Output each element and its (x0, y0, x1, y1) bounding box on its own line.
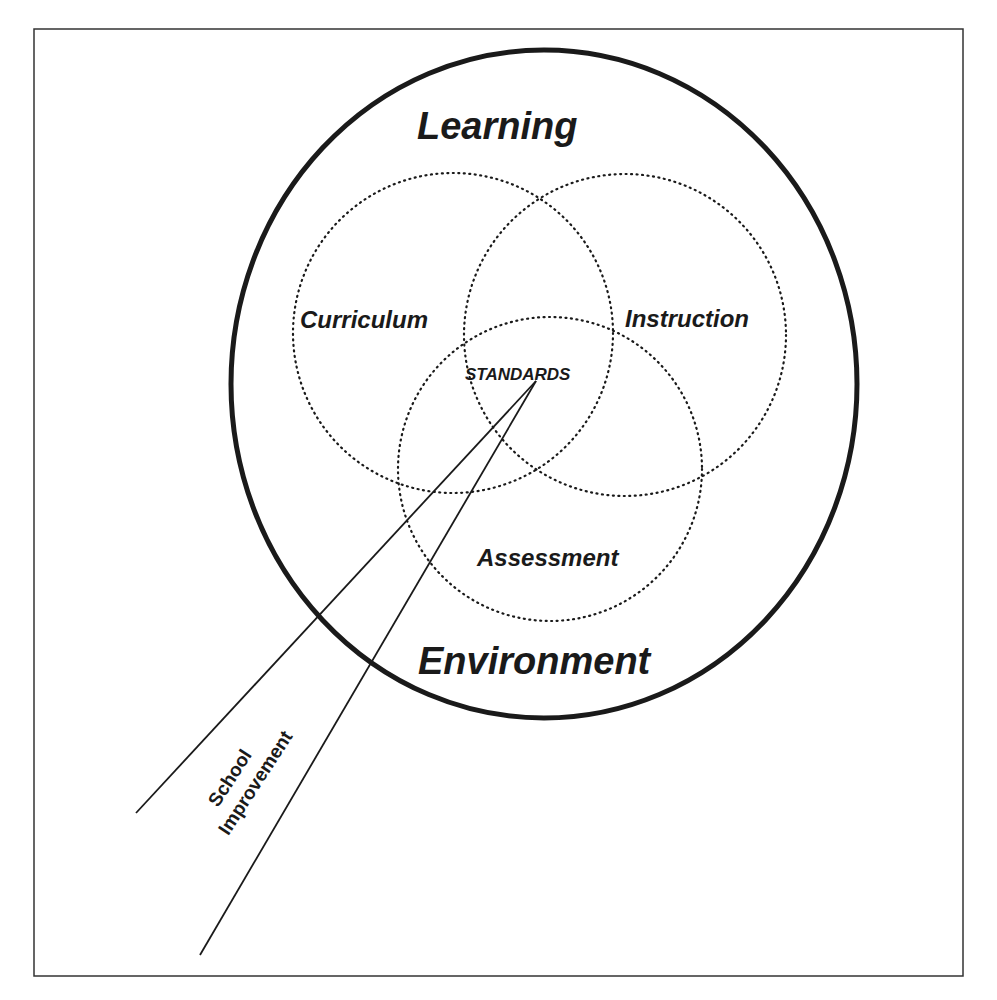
environment-label: Environment (418, 640, 652, 682)
learning-environment-circle (231, 50, 857, 718)
curriculum-label: Curriculum (300, 306, 428, 333)
assessment-circle (398, 317, 702, 621)
school-improvement-beam-left (136, 381, 536, 813)
diagram-canvas: Learning Environment Curriculum Instruct… (0, 0, 997, 1000)
assessment-label: Assessment (476, 544, 619, 571)
standards-label: STANDARDS (465, 365, 571, 384)
frame-border (34, 29, 963, 976)
curriculum-circle (293, 173, 613, 493)
learning-label: Learning (417, 105, 577, 147)
instruction-label: Instruction (625, 305, 749, 332)
school-improvement-label: School Improvement (194, 713, 297, 838)
instruction-circle (464, 174, 786, 496)
